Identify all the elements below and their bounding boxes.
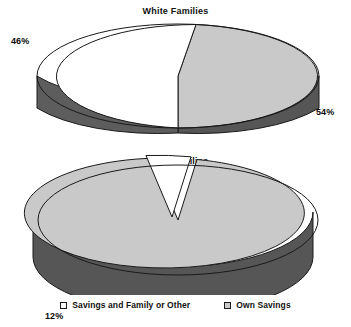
- legend-swatch-icon-savings-and-family-or-other: [60, 302, 67, 309]
- chart-white-families: White Families 46% 54%: [0, 0, 351, 150]
- pie-3d-black-families: [0, 150, 351, 295]
- chart-legend: Savings and Family or Other Own Savings: [0, 296, 351, 314]
- pie-chart-figure: White Families 46% 54% Black Families: [0, 0, 351, 327]
- pct-label-white-savings-family: 46%: [11, 36, 29, 46]
- pct-label-white-own-savings: 54%: [316, 107, 334, 117]
- legend-label-own-savings: Own Savings: [236, 300, 290, 310]
- legend-label-savings-and-family-or-other: Savings and Family or Other: [72, 300, 190, 310]
- chart-black-families: Black Families 12% 88%: [0, 150, 351, 295]
- legend-swatch-icon-own-savings: [224, 302, 231, 309]
- legend-item-own-savings: Own Savings: [224, 300, 290, 310]
- pie-3d-white-families: [0, 0, 351, 150]
- legend-item-savings-and-family-or-other: Savings and Family or Other: [60, 300, 190, 310]
